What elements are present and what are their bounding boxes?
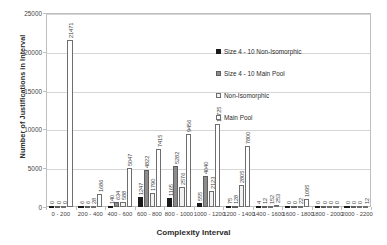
x-tick-label: 0 - 200: [46, 211, 76, 217]
bar[interactable]: 2123: [209, 191, 214, 207]
y-tick-label: 0: [2, 204, 42, 211]
legend-label: Non-Isomorphic: [224, 92, 269, 99]
bar[interactable]: 140: [108, 206, 113, 208]
bar-value-label: 12: [364, 198, 370, 204]
bar[interactable]: 0: [344, 206, 349, 208]
bar[interactable]: 588: [120, 202, 125, 207]
bar-value-label: 0: [316, 201, 322, 204]
bar[interactable]: 7415: [156, 149, 161, 207]
bar[interactable]: 21471: [67, 40, 72, 207]
bar[interactable]: 5282: [173, 166, 178, 207]
bar[interactable]: 0: [285, 206, 290, 208]
bar-value-label: 12: [263, 198, 269, 204]
legend-label: Size 4 - 10 Non-Isomorphic: [224, 48, 301, 55]
y-tick-label: 10000: [2, 126, 42, 133]
legend-swatch-icon: [216, 49, 221, 54]
x-tick-mark: [223, 207, 224, 210]
bar-value-label: 0: [322, 201, 328, 204]
bar-value-label: 0: [50, 201, 56, 204]
y-tick-label: 25000: [2, 10, 42, 17]
bar[interactable]: 4822: [144, 170, 149, 207]
bar[interactable]: 0: [357, 206, 362, 208]
y-tick-label: 20000: [2, 49, 42, 56]
bar[interactable]: 0: [49, 206, 54, 208]
legend-item[interactable]: Main Pool: [216, 106, 366, 128]
x-tick-label: 2000 - 2200: [341, 211, 371, 217]
bar[interactable]: 7800: [245, 146, 250, 207]
bar[interactable]: 1790: [150, 193, 155, 207]
bar-group: 00021471: [46, 13, 76, 207]
bar-value-label: 21471: [68, 23, 74, 38]
bar[interactable]: 1686: [97, 194, 102, 207]
bar-value-label: 4040: [204, 161, 210, 173]
bar[interactable]: 0: [61, 206, 66, 208]
legend-item[interactable]: Non-Isomorphic: [216, 84, 366, 106]
bar-value-label: 1095: [305, 184, 311, 196]
bar-value-label: 5047: [127, 154, 133, 166]
bar[interactable]: 75: [226, 206, 231, 208]
bar-value-label: 0: [286, 201, 292, 204]
bar[interactable]: 6: [85, 206, 90, 208]
x-tick-mark: [282, 207, 283, 210]
legend-item[interactable]: Size 4 - 10 Main Pool: [216, 62, 366, 84]
bar-value-label: 5282: [174, 152, 180, 164]
bar[interactable]: 128: [232, 206, 237, 208]
bar[interactable]: 634: [114, 202, 119, 207]
bar-value-label: 7415: [157, 135, 163, 147]
bar[interactable]: 0: [327, 206, 332, 208]
bar[interactable]: 0: [291, 206, 296, 208]
bar[interactable]: 28: [91, 206, 96, 208]
bar-value-label: 4822: [144, 155, 150, 167]
x-tick-mark: [164, 207, 165, 210]
x-tick-label: 1600 - 1800: [282, 211, 312, 217]
bar[interactable]: 2576: [179, 187, 184, 207]
x-tick-label: 400 - 600: [105, 211, 135, 217]
bar-value-label: 634: [115, 191, 121, 200]
chart-legend: Size 4 - 10 Non-IsomorphicSize 4 - 10 Ma…: [216, 40, 366, 128]
bar-group: 1406345885047: [105, 13, 135, 207]
x-tick-label: 600 - 800: [135, 211, 165, 217]
x-tick-mark: [76, 207, 77, 210]
x-tick-label: 800 - 1000: [164, 211, 194, 217]
bar[interactable]: 22: [298, 206, 303, 208]
bar-value-label: 1686: [98, 180, 104, 192]
x-tick-mark: [135, 207, 136, 210]
bar[interactable]: 1095: [304, 199, 309, 207]
bar-value-label: 152: [269, 195, 275, 204]
bar[interactable]: 1247: [138, 197, 143, 207]
bar[interactable]: 0: [351, 206, 356, 208]
bar[interactable]: 152: [268, 206, 273, 208]
bar[interactable]: 12: [262, 206, 267, 208]
legend-label: Size 4 - 10 Main Pool: [224, 70, 285, 77]
bar[interactable]: 1165: [167, 198, 172, 207]
legend-item[interactable]: Size 4 - 10 Non-Isomorphic: [216, 40, 366, 62]
x-tick-mark: [312, 207, 313, 210]
bar[interactable]: 12: [363, 206, 368, 208]
bar-value-label: 0: [358, 201, 364, 204]
bar-value-label: 7800: [246, 132, 252, 144]
bar[interactable]: 6: [78, 206, 83, 208]
bar[interactable]: 0: [333, 206, 338, 208]
x-tick-mark: [341, 207, 342, 210]
bar[interactable]: 5047: [127, 168, 132, 207]
bar[interactable]: 253: [274, 205, 279, 207]
x-tick-label: 1800 - 2000: [312, 211, 342, 217]
x-tick-mark: [194, 207, 195, 210]
bar[interactable]: 555: [197, 203, 202, 207]
bar-value-label: 0: [56, 201, 62, 204]
bar[interactable]: 0: [321, 206, 326, 208]
x-tick-mark: [253, 207, 254, 210]
bar[interactable]: 0: [55, 206, 60, 208]
x-tick-mark: [46, 207, 47, 210]
bar[interactable]: 2805: [239, 185, 244, 207]
x-tick-label: 1000 - 1200: [194, 211, 224, 217]
legend-swatch-icon: [216, 115, 221, 120]
chart-container: Number of Justifications in Interval 050…: [0, 0, 387, 245]
bar[interactable]: 10725: [215, 124, 220, 207]
bar[interactable]: 4040: [203, 176, 208, 207]
bar[interactable]: 0: [315, 206, 320, 208]
bar[interactable]: 4: [256, 206, 261, 208]
x-tick-label: 1400 - 1600: [253, 211, 283, 217]
bar[interactable]: 9456: [186, 134, 191, 207]
legend-swatch-icon: [216, 93, 221, 98]
